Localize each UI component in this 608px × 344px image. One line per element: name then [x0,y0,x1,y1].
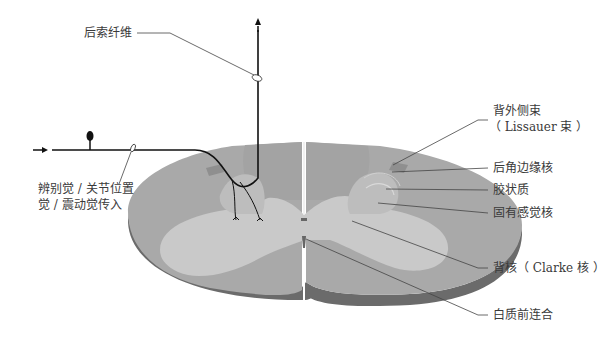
dorsal-root-ganglion-cell [87,131,94,141]
label-input-line2: 觉 / 震动觉传入 [38,198,122,213]
label-substantia-gelatinosa: 胶状质 [493,183,529,198]
label-lissauer-line1: 背外侧束 [493,104,541,119]
label-lissauer-line2: （ Lissauer 束 ） [489,120,588,135]
label-marginal-nucleus: 后角边缘核 [493,161,553,176]
label-posterior-column-fibers: 后索纤维 [84,26,132,41]
central-canal [301,218,307,221]
label-clarke-nucleus: 背核（ Clarke 核 ） [493,261,605,276]
input-arrowhead [42,147,48,153]
label-nucleus-proprius: 固有感觉核 [493,206,553,221]
anterior-fissure-top [302,236,306,248]
label-input-line1: 辨别觉 / 关节位置 [38,182,134,197]
cut-marker-input [129,144,136,153]
label-anterior-white-commissure: 白质前连合 [493,308,553,323]
ascending-arrowhead [255,18,261,25]
